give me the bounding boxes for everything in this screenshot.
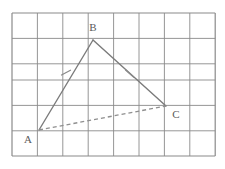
geometry-diagram: A B C [0,0,225,169]
vertex-labels: A B C [24,21,180,145]
vertex-label-a: A [24,133,32,145]
triangle-sides [39,40,166,130]
vertex-label-b: B [89,21,96,33]
tick-mark-bc-icon [126,70,134,77]
segment-ab [39,40,93,130]
diagram-canvas: A B C [0,0,225,169]
grid-lines [12,13,215,156]
segment-ac-dashed [39,106,166,130]
vertex-label-c: C [172,108,179,120]
